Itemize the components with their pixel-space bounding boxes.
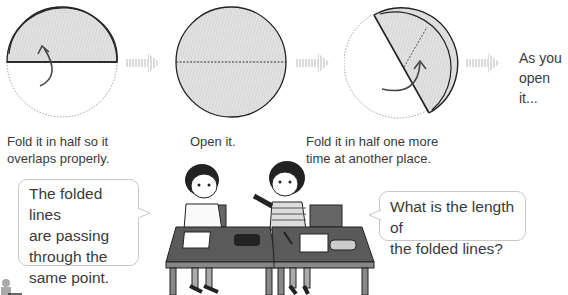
person-icon [0, 278, 22, 295]
step1-caption: Fold it in half so it overlaps properly. [7, 133, 109, 167]
next-step-text: As you open it... [519, 48, 568, 108]
step2-caption: Open it. [190, 133, 236, 150]
students-at-desks-illustration [162, 160, 382, 295]
hatched-right-arrow-icon [296, 53, 332, 73]
step2-figure [174, 5, 288, 119]
girl-figure [254, 161, 306, 230]
step1-figure [4, 4, 122, 120]
hatched-right-arrow-icon [466, 53, 502, 73]
hatched-right-arrow-icon [126, 53, 162, 73]
bubble-tail-left [138, 206, 152, 220]
boy-figure [184, 164, 222, 230]
speech-bubble-right: What is the length of the folded lines? [379, 191, 526, 241]
speech-bubble-left: The folded lines are passing through the… [18, 179, 139, 266]
step3-figure [344, 5, 464, 121]
